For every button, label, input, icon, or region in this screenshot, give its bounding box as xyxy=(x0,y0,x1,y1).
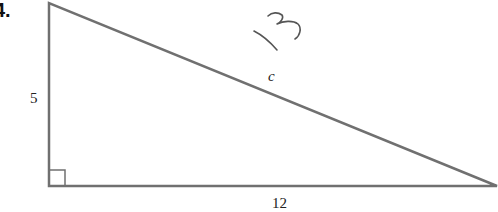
hypotenuse-label: c xyxy=(268,68,275,84)
right-angle-marker xyxy=(49,170,65,186)
handwritten-three-stroke xyxy=(268,13,300,39)
handwritten-one-stroke xyxy=(254,31,277,50)
horizontal-leg-label: 12 xyxy=(272,195,287,211)
problem-number: 4. xyxy=(0,0,11,21)
vertical-leg-label: 5 xyxy=(30,90,38,106)
right-triangle-diagram: 4. 5 12 c xyxy=(0,0,498,212)
handwritten-answer-13 xyxy=(254,13,300,50)
triangle-outline xyxy=(49,3,497,186)
